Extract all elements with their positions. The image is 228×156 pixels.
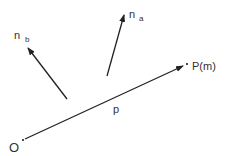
vector-na-label: n: [129, 8, 135, 20]
vector-na-arrow: [107, 15, 124, 76]
origin-point: [22, 139, 24, 141]
origin-label: O: [9, 140, 19, 155]
vector-diagram: O P(m) p n a n b: [0, 0, 228, 156]
vector-nb-arrow: [28, 48, 67, 99]
vector-nb-subscript: b: [25, 35, 30, 44]
vector-p-label: p: [113, 103, 119, 115]
vector-na-subscript: a: [139, 14, 144, 23]
vector-nb-label: n: [14, 29, 20, 41]
target-label: P(m): [192, 60, 216, 72]
target-point: [186, 63, 188, 65]
vector-p-arrow: [25, 66, 183, 139]
